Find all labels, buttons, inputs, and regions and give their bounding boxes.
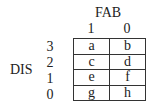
table-row: g h [74, 85, 146, 101]
row-level-3: 3 [45, 40, 55, 54]
row-level-2: 2 [45, 56, 55, 70]
table-row: e f [74, 70, 146, 86]
row-level-0: 0 [45, 88, 55, 102]
table-row: c d [74, 54, 146, 70]
table-cell: g [74, 85, 110, 101]
contingency-table: a b c d e f g h [73, 38, 146, 101]
column-level-1: 1 [73, 22, 109, 36]
row-level-1: 1 [45, 72, 55, 86]
table-cell: a [74, 39, 110, 55]
table-cell: b [110, 39, 146, 55]
table-row: a b [74, 39, 146, 55]
table-cell: e [74, 70, 110, 86]
table-cell: f [110, 70, 146, 86]
table-cell: c [74, 54, 110, 70]
column-level-0: 0 [109, 22, 145, 36]
table-cell: d [110, 54, 146, 70]
column-variable-label: FAB [95, 6, 121, 20]
row-variable-label: DIS [10, 63, 33, 77]
table-cell: h [110, 85, 146, 101]
